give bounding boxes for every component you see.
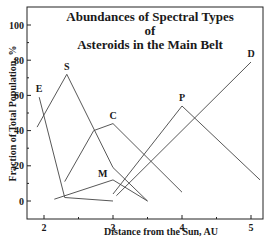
series-line-P	[113, 106, 260, 194]
line-chart: 0204060801002345 ESCMPD	[0, 0, 269, 246]
x-tick-label: 4	[180, 222, 185, 233]
x-tick-label: 2	[42, 222, 47, 233]
axes: 0204060801002345	[9, 20, 254, 234]
series-label-M: M	[98, 168, 108, 179]
x-tick-label: 3	[111, 222, 116, 233]
series-line-E	[39, 97, 113, 201]
series-lines	[37, 62, 260, 201]
series-label-C: C	[109, 110, 116, 121]
y-tick-label: 80	[14, 55, 24, 66]
series-label-S: S	[64, 61, 70, 72]
y-tick-label: 60	[14, 90, 24, 101]
x-tick-label: 5	[249, 222, 254, 233]
y-tick-label: 40	[14, 125, 24, 136]
y-tick-label: 100	[9, 20, 24, 31]
series-label-P: P	[179, 92, 185, 103]
series-line-C	[65, 124, 182, 193]
series-line-D	[116, 62, 251, 196]
series-label-E: E	[36, 83, 43, 94]
y-tick-label: 20	[14, 160, 24, 171]
series-line-S	[37, 74, 147, 201]
y-tick-label: 0	[19, 196, 24, 207]
series-label-D: D	[247, 48, 254, 59]
series-labels: ESCMPD	[36, 48, 255, 179]
